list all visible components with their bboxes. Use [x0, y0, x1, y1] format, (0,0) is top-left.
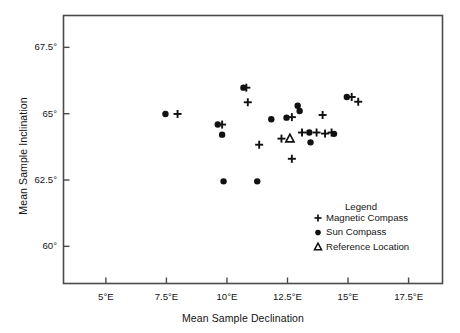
legend-title: Legend [345, 201, 377, 212]
y-tick-label: 60° [5, 240, 57, 251]
x-tick-label: 10°E [197, 291, 257, 302]
legend-entry-label: Reference Location [326, 241, 409, 252]
y-tick-label: 65° [5, 108, 57, 119]
legend-markers [314, 214, 321, 249]
y-axis-title: Mean Sample Inclination [17, 81, 29, 231]
x-tick-label: 15°E [318, 291, 378, 302]
plot-canvas [0, 0, 460, 333]
data-markers [162, 84, 362, 185]
scatter-plot-figure: Mean Sample Inclination Mean Sample Decl… [0, 0, 460, 333]
x-tick-label: 12.5°E [258, 291, 318, 302]
y-tick-label: 62.5° [5, 174, 57, 185]
y-tick-label: 67.5° [5, 41, 57, 52]
x-tick-label: 5°E [76, 291, 136, 302]
legend-entry-label: Sun Compass [326, 226, 386, 237]
legend-entry-label: Magnetic Compass [326, 212, 408, 223]
x-tick-label: 7.5°E [136, 291, 196, 302]
x-axis-title: Mean Sample Declination [163, 312, 323, 324]
x-tick-label: 17.5°E [379, 291, 439, 302]
